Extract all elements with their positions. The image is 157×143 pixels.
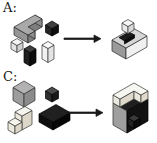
panel-a-arrow-icon	[64, 35, 101, 43]
figure-canvas	[0, 0, 157, 143]
panel-c-assembled-shape	[113, 83, 148, 133]
panel-a-pieces-group	[11, 15, 59, 66]
panel-a-assembled-shape	[112, 20, 147, 60]
panel-c-arrow-icon	[67, 109, 103, 117]
panel-c-pieces-group	[8, 81, 70, 134]
puzzle-figure: A: C:	[0, 0, 157, 143]
